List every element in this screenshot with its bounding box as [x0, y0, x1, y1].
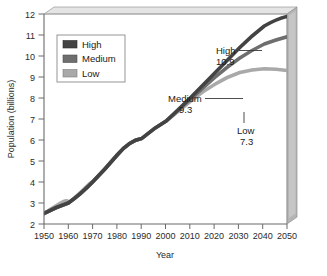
x-tick-label-1980: 1980: [107, 231, 127, 241]
y-tick-label-4: 4: [30, 178, 35, 188]
annotation-medium-value: 9.3: [179, 104, 192, 115]
x-tick-label-2020: 2020: [204, 231, 224, 241]
x-tick-label-1950: 1950: [34, 231, 54, 241]
annotation-low-name: Low: [237, 125, 255, 136]
legend-label-high: High: [82, 39, 102, 50]
population-projection-chart: 12 11 10 9 8 7 6 5 4 3 2 1950 1960 1970 …: [0, 0, 327, 276]
y-axis-title: Population (billions): [6, 80, 16, 159]
x-tick-label-1990: 1990: [131, 231, 151, 241]
annotation-low-value: 7.3: [240, 136, 253, 147]
x-tick-label-2030: 2030: [228, 231, 248, 241]
plot-box-top-face: [44, 7, 297, 14]
y-axis-ticks: [39, 14, 45, 224]
x-tick-label-1970: 1970: [83, 231, 103, 241]
x-axis-ticks: [44, 224, 287, 229]
legend-swatch-low: [63, 70, 77, 78]
y-tick-label-10: 10: [25, 52, 35, 62]
y-tick-label-8: 8: [30, 94, 35, 104]
x-tick-label-2000: 2000: [155, 231, 175, 241]
x-tick-label-2040: 2040: [253, 231, 273, 241]
y-tick-label-3: 3: [30, 199, 35, 209]
annotation-medium-name: Medium: [168, 93, 202, 104]
x-axis-title: Year: [156, 250, 174, 260]
y-tick-label-7: 7: [30, 115, 35, 125]
x-tick-label-2010: 2010: [180, 231, 200, 241]
plot-box-right-wall-highlight: [289, 11, 296, 218]
legend: High Medium Low: [57, 35, 125, 82]
y-tick-label-11: 11: [26, 31, 35, 41]
annotation-high-name: High: [216, 45, 236, 56]
chart-canvas: 12 11 10 9 8 7 6 5 4 3 2 1950 1960 1970 …: [0, 0, 327, 276]
y-tick-label-6: 6: [30, 136, 35, 146]
legend-swatch-medium: [63, 55, 77, 63]
x-tick-label-2050: 2050: [277, 231, 297, 241]
y-tick-label-2: 2: [30, 220, 35, 230]
y-tick-label-9: 9: [30, 73, 35, 83]
legend-label-medium: Medium: [82, 53, 116, 64]
legend-swatch-high: [63, 41, 77, 49]
y-tick-label-5: 5: [30, 157, 35, 167]
legend-label-low: Low: [82, 68, 100, 79]
x-tick-label-1960: 1960: [58, 231, 78, 241]
y-tick-label-12: 12: [25, 10, 35, 20]
annotation-high-value: 10.9: [216, 56, 235, 67]
